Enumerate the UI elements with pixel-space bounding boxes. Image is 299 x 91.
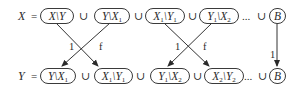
bottom-set-3: Y1\X2 (150, 68, 190, 84)
top-union-1: ∪ (79, 9, 88, 23)
bottom-ellipsis: ... (244, 69, 252, 83)
bottom-set-1: Y\X1 (40, 68, 76, 84)
top-union-4: ∪ (257, 9, 266, 23)
top-set-3: X1\Y1 (145, 8, 185, 24)
label-1-pair2: 1 (175, 41, 180, 53)
bottom-set-b: B (269, 68, 286, 84)
bottom-union-3: ∪ (193, 69, 202, 83)
bottom-set-2: X1\Y1 (94, 68, 133, 84)
bottom-union-1: ∪ (81, 69, 90, 83)
bottom-lhs: Y (18, 69, 25, 83)
top-set-4: Y1\X2 (199, 8, 239, 24)
top-union-2: ∪ (134, 9, 143, 23)
top-ellipsis: ... (242, 9, 250, 23)
bottom-union-2: ∪ (136, 69, 145, 83)
bottom-union-4: ∪ (258, 69, 267, 83)
top-equals: = (31, 9, 37, 23)
bottom-equals: = (31, 69, 37, 83)
label-1-pair1: 1 (69, 41, 74, 53)
top-lhs: X (18, 9, 25, 23)
label-f-pair2: f (203, 41, 207, 53)
arrow-f-1 (56, 23, 98, 66)
top-set-1: X\Y (40, 8, 74, 24)
bottom-set-4: X2\Y2 (204, 68, 244, 84)
label-f-pair1: f (99, 41, 103, 53)
top-set-2: Y\X1 (94, 8, 130, 24)
label-1-b: 1 (270, 49, 275, 61)
top-union-3: ∪ (188, 9, 197, 23)
top-set-b: B (269, 8, 286, 24)
